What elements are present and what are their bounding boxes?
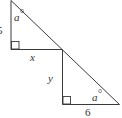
- shared-hypotenuse-line: [11, 1, 120, 105]
- label-angle-a-bottom: a°: [92, 87, 103, 103]
- label-side-x: x: [29, 51, 35, 63]
- label-side-6: 6: [85, 106, 91, 118]
- diagram-canvas: 5 x a° y 6 a°: [0, 0, 122, 118]
- label-side-y: y: [47, 72, 53, 84]
- label-angle-a-top: a°: [14, 7, 25, 23]
- top-right-angle-marker: [12, 42, 20, 50]
- bottom-right-angle-marker: [63, 97, 71, 105]
- label-side-5: 5: [0, 24, 3, 36]
- similar-triangles-diagram: 5 x a° y 6 a°: [0, 0, 122, 118]
